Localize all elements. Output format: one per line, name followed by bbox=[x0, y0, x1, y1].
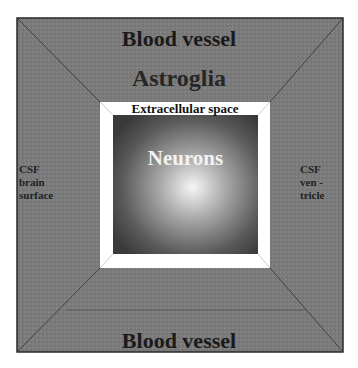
right-label-line: tricle bbox=[300, 189, 324, 202]
top-blood-vessel-label: Blood vessel bbox=[0, 28, 358, 50]
neuron-core bbox=[113, 115, 258, 254]
bottom-blood-vessel-label: Blood vessel bbox=[0, 330, 358, 352]
extracellular-space-label: Extracellular space bbox=[100, 102, 270, 115]
csf-brain-surface-label: CSF brain surface bbox=[19, 163, 53, 202]
astroglia-label: Astroglia bbox=[0, 66, 358, 90]
neurons-label: Neurons bbox=[113, 148, 258, 169]
left-label-line: brain bbox=[19, 176, 53, 189]
csf-ventricle-label: CSF ven - tricle bbox=[300, 163, 324, 202]
left-label-line: CSF bbox=[19, 163, 53, 176]
right-label-line: CSF bbox=[300, 163, 324, 176]
right-label-line: ven - bbox=[300, 176, 324, 189]
diagram-canvas: Blood vessel Astroglia Extracellular spa… bbox=[0, 0, 358, 368]
left-label-line: surface bbox=[19, 189, 53, 202]
